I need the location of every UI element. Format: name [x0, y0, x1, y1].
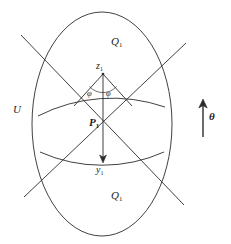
label-region-q-lower: Q1 [111, 190, 122, 201]
label-point-y1: y1 [96, 165, 104, 175]
label-angle-phi-right: φ [106, 89, 111, 98]
outer-ellipse-u [32, 12, 172, 236]
label-region-p1: P1 [89, 117, 99, 128]
geometry-figure: Q1 Q1 U z1 y1 P1 φ φ θ [0, 0, 231, 244]
point-z1-marker [102, 73, 105, 76]
label-region-q-upper: Q1 [111, 36, 122, 47]
chord-line-ascending [24, 43, 186, 197]
label-region-u: U [13, 104, 21, 115]
label-angle-phi-left: φ [87, 89, 92, 98]
label-direction-theta: θ [209, 111, 215, 122]
upper-arc [38, 98, 165, 116]
label-point-z1: z1 [96, 61, 103, 71]
